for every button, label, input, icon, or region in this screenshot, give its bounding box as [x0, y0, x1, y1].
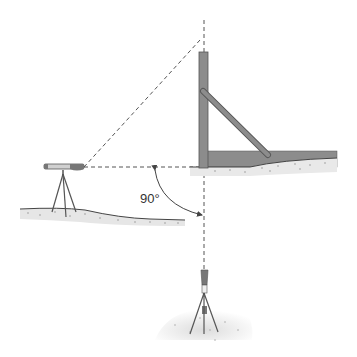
right-angle-arc — [155, 170, 202, 215]
angle-label: 90° — [140, 191, 160, 206]
diagonal-sight-line — [84, 40, 200, 167]
vertical-post — [199, 52, 208, 168]
diagonal-brace — [203, 91, 268, 155]
left-ground — [20, 208, 185, 226]
diagram-canvas: 90° — [0, 0, 357, 357]
